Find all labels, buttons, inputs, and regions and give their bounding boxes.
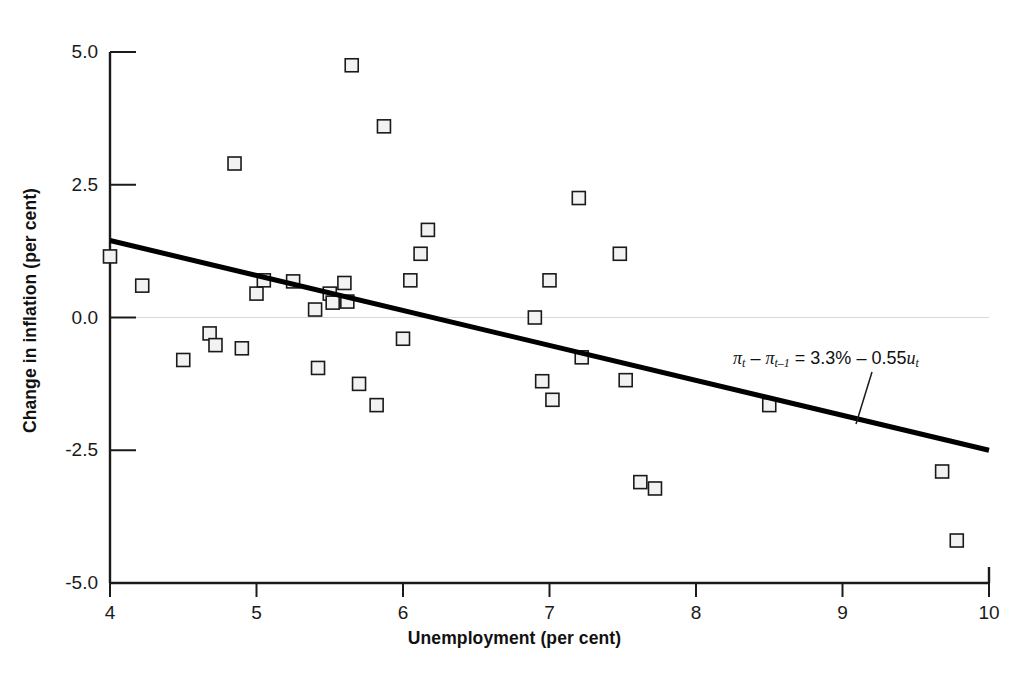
annotation-leader-line [856, 372, 872, 424]
y-tick-label: -5.0 [20, 572, 98, 594]
data-point [414, 247, 427, 260]
x-tick-label: 8 [691, 602, 702, 624]
minus-sign-2: – [856, 348, 866, 368]
intercept-value: 3.3% [810, 348, 851, 368]
x-tick-label: 9 [837, 602, 848, 624]
data-point [528, 311, 541, 324]
x-tick-label: 6 [398, 602, 409, 624]
x-tick-label: 5 [251, 602, 262, 624]
subscript-t-minus-1: t–1 [774, 356, 789, 370]
data-point [104, 250, 117, 263]
axis-ticks [110, 52, 989, 597]
x-tick-label: 7 [544, 602, 555, 624]
x-tick-label: 4 [105, 602, 116, 624]
y-tick-label: 0.0 [20, 307, 98, 329]
data-point [345, 59, 358, 72]
data-point [546, 393, 559, 406]
data-point [936, 465, 949, 478]
data-point [312, 361, 325, 374]
data-point [613, 247, 626, 260]
data-point [536, 375, 549, 388]
data-point [309, 303, 322, 316]
data-point [177, 353, 190, 366]
data-point [634, 476, 647, 489]
data-point [950, 534, 963, 547]
phillips-curve-scatter-chart: Change in inflation (per cent) Unemploym… [0, 0, 1029, 676]
data-point [235, 342, 248, 355]
data-point [136, 279, 149, 292]
data-point [648, 482, 661, 495]
pi-symbol-current: π [733, 348, 742, 368]
y-tick-label: -2.5 [20, 439, 98, 461]
data-point [370, 399, 383, 412]
data-point-markers [104, 59, 964, 547]
data-point [377, 120, 390, 133]
x-tick-label: 10 [978, 602, 999, 624]
data-point [338, 276, 351, 289]
y-tick-label: 2.5 [20, 174, 98, 196]
regression-equation-annotation: πt – πt–1 = 3.3% – 0.55ut [733, 348, 919, 371]
equals-sign: = [795, 348, 806, 368]
minus-sign-1: – [750, 348, 760, 368]
data-point [397, 332, 410, 345]
chart-canvas [0, 0, 1029, 676]
data-point [353, 377, 366, 390]
data-point [326, 296, 339, 309]
data-point [404, 274, 417, 287]
data-point [572, 192, 585, 205]
y-tick-label: 5.0 [20, 41, 98, 63]
data-point [543, 274, 556, 287]
data-point [619, 374, 632, 387]
data-point [228, 157, 241, 170]
data-point [250, 287, 263, 300]
slope-value: 0.55 [871, 348, 906, 368]
data-point [209, 339, 222, 352]
u-subscript-t: t [915, 356, 918, 370]
x-axis-title: Unemployment (per cent) [0, 628, 1029, 649]
subscript-t: t [742, 356, 745, 370]
data-point [421, 223, 434, 236]
leader-line [856, 372, 872, 424]
